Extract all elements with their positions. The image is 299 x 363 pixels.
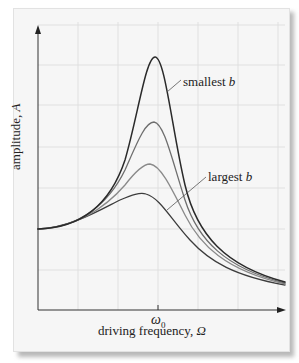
y-axis-label: amplitude, A (8, 104, 24, 170)
x-axis-arrow-icon (277, 307, 286, 313)
plot-area (0, 0, 299, 363)
y-axis-arrow-icon (35, 25, 41, 34)
annotation-largest-b: largest b (208, 169, 252, 185)
curve-largest-b (38, 193, 285, 285)
leader-smallest-b (167, 80, 181, 92)
curve-b2 (38, 122, 285, 283)
x-axis-label: driving frequency, Ω (98, 323, 206, 339)
annotation-smallest-b: smallest b (183, 74, 235, 90)
